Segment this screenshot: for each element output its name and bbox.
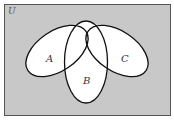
set-c-label: C	[121, 53, 129, 64]
venn-diagram: U A B C	[0, 0, 174, 122]
set-a-label: A	[45, 53, 53, 64]
universe-label: U	[8, 6, 16, 16]
set-b-label: B	[82, 75, 90, 86]
